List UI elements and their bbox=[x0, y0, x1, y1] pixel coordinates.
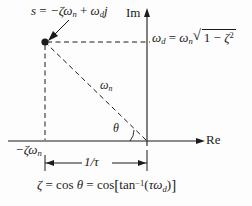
pole-expr-plus: + bbox=[80, 3, 87, 18]
omega-d-symbol: ω bbox=[152, 30, 161, 45]
sigma-subscript: n bbox=[37, 148, 41, 158]
omega-d-equals: = bbox=[169, 30, 176, 45]
damping-tan: tan bbox=[119, 177, 135, 192]
damping-ratio-equation-label: ζ = cos θ = cos[tan−1(τωd)] bbox=[37, 178, 176, 193]
pole-marker bbox=[41, 38, 48, 45]
damping-equals-1: = bbox=[46, 177, 53, 192]
omega-n-vector-subscript: n bbox=[108, 84, 112, 93]
omega-n-symbol: ω bbox=[179, 30, 188, 45]
theta-arc bbox=[130, 130, 134, 141]
damping-cos-1: cos bbox=[56, 177, 73, 192]
damping-omega: ω bbox=[153, 177, 162, 192]
pole-expr-sub-n: n bbox=[72, 9, 76, 19]
damping-tan-exponent: −1 bbox=[135, 178, 144, 188]
damping-close-bracket: ] bbox=[171, 177, 176, 193]
radical-sign: √ bbox=[193, 28, 201, 43]
pole-expr-equals: = bbox=[39, 3, 46, 18]
omega-d-equation-label: ωd = ωn√1 − ζ2 bbox=[152, 29, 236, 46]
real-axis-label: Re bbox=[206, 133, 220, 146]
pole-callout-arrow bbox=[48, 20, 69, 41]
pole-expr-j: j bbox=[104, 3, 108, 18]
damping-cos-2: cos bbox=[97, 177, 114, 192]
sigma-axis-label: −ζωn bbox=[15, 143, 42, 158]
pole-expression-label: s = −ζωn + ωdj bbox=[31, 4, 108, 19]
pole-plot-figure: s = −ζωn + ωdj Im Re ωd = ωn√1 − ζ2 ωn θ… bbox=[0, 0, 252, 206]
radicand-minus: − bbox=[214, 30, 221, 45]
square-root-group: √1 − ζ2 bbox=[193, 29, 236, 44]
pole-expr-s: s bbox=[31, 3, 36, 18]
pole-expr-minus-zeta-omega: −ζω bbox=[50, 3, 72, 18]
radicand: 1 − ζ2 bbox=[202, 29, 236, 44]
damping-equals-2: = bbox=[86, 177, 93, 192]
omega-d-subscript: d bbox=[161, 36, 165, 46]
damping-theta: θ bbox=[77, 177, 83, 192]
omega-n-vector-label: ωn bbox=[100, 79, 112, 93]
theta-label: θ bbox=[113, 122, 119, 134]
sigma-text: −ζω bbox=[15, 142, 37, 157]
pole-expr-omega: ω bbox=[91, 3, 100, 18]
radicand-one: 1 bbox=[204, 30, 211, 45]
imaginary-axis-label: Im bbox=[126, 6, 140, 19]
imaginary-axis bbox=[144, 8, 150, 146]
dashed-omega-n-vector bbox=[47, 44, 146, 140]
time-constant-label: 1/τ bbox=[84, 155, 99, 168]
radicand-exponent: 2 bbox=[229, 30, 233, 40]
damping-zeta: ζ bbox=[37, 177, 42, 192]
